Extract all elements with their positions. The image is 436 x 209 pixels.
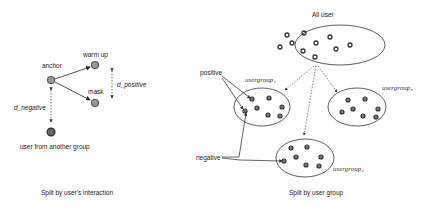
all-user-ellipse (295, 25, 385, 65)
group2-ellipse (276, 139, 334, 177)
negative-arrow-1 (222, 113, 246, 157)
warm-up-node (92, 62, 99, 69)
to-group2-arrow (304, 66, 316, 135)
all-user-label: All user (312, 11, 335, 18)
anchor-label: anchor (42, 62, 63, 69)
right-panel: All user usergroup₁ (196, 11, 413, 197)
all-user-nodes (278, 31, 352, 59)
group3-label: usergroup₃ (382, 84, 413, 92)
d-negative-label: d_negative (14, 104, 46, 112)
group1-label: usergroup₁ (245, 76, 276, 84)
negative-arrow-2 (222, 158, 282, 161)
left-panel: anchor warm up mask d_positive d_negativ… (14, 51, 147, 197)
diagram-canvas: anchor warm up mask d_positive d_negativ… (0, 0, 436, 209)
group2-label: usergroup₂ (333, 165, 364, 173)
anchor-to-mask-arrow (55, 82, 90, 100)
other-group-label: user from another group (20, 143, 90, 151)
group1-nodes (243, 96, 284, 118)
positive-label: positive (200, 69, 222, 77)
to-group3-arrow (318, 66, 337, 92)
mask-node (92, 100, 99, 107)
negative-label: negative (196, 154, 221, 162)
positive-arrow-2 (222, 78, 243, 109)
mask-label: mask (88, 88, 104, 95)
to-group1-arrow (285, 66, 314, 90)
warm-up-label: warm up (82, 51, 108, 59)
left-caption: Split by user's interaction (41, 189, 113, 197)
group2-nodes (282, 145, 323, 168)
other-group-node (47, 128, 55, 136)
anchor-node (48, 77, 55, 84)
group3-nodes (340, 97, 380, 119)
right-caption: Split by user group (289, 189, 344, 197)
d-positive-label: d_positive (117, 81, 147, 89)
